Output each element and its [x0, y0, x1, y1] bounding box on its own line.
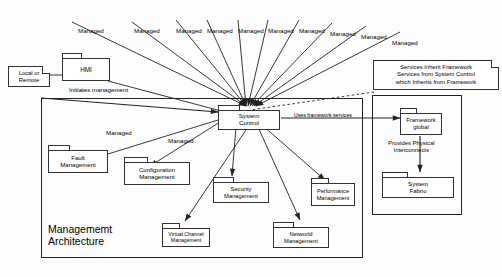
- package-virtual-channel-management[interactable]: Virtual Channel Management: [162, 223, 210, 247]
- edge-label-provides-physical-interconnects: Provides Physical Interconnects: [388, 140, 435, 154]
- package-configuration-management-label: Configuration Management: [124, 162, 190, 185]
- note-inheritance: Services Inherit Framework Services from…: [373, 60, 499, 90]
- package-hmi[interactable]: HMI: [62, 53, 110, 81]
- edge-label-managed-3: Managed: [176, 27, 202, 34]
- package-performance-management[interactable]: Performance Management: [311, 178, 355, 206]
- edge-label-managed-fault: Managed: [106, 129, 132, 136]
- edge-label-managed-8: Managed: [330, 30, 356, 37]
- package-configuration-management[interactable]: Configuration Management: [124, 157, 190, 185]
- edge-label-managed-5: Managed: [238, 27, 264, 34]
- package-hmi-label: HMI: [62, 58, 110, 81]
- package-framework-global[interactable]: Framework global: [400, 108, 442, 135]
- package-performance-management-label: Performance Management: [311, 183, 355, 206]
- diagram-canvas: Managememt Architecture Computational Ar…: [0, 0, 502, 277]
- package-fault-management[interactable]: Fault Management: [48, 145, 108, 173]
- package-system-control[interactable]: System Control: [218, 105, 280, 130]
- edge-label-managed-10: Managed: [392, 39, 418, 46]
- package-security-management[interactable]: Security Management: [213, 177, 269, 203]
- package-framework-global-label: Framework global: [400, 113, 442, 135]
- edge-label-managed-1: Managed: [78, 27, 104, 34]
- edge-label-managed-configuration: Managed: [168, 137, 194, 144]
- package-system-control-label: System Control: [218, 110, 280, 130]
- package-security-management-label: Security Management: [213, 182, 269, 203]
- edge-label-uses-framework-services: Uses framework services: [294, 112, 352, 118]
- edge-label-managed-7: Managed: [299, 27, 325, 34]
- package-system-fabric[interactable]: System Fabrio: [382, 172, 454, 198]
- note-fold-corner: [42, 66, 50, 74]
- package-fault-management-label: Fault Management: [48, 150, 108, 173]
- management-architecture-label: Managememt Architecture: [48, 223, 112, 247]
- note-local-or-remote: Local or Remote: [8, 66, 50, 87]
- edge-label-initiates-management: Initiates management: [69, 86, 128, 93]
- edge-label-managed-6: Managed: [268, 27, 294, 34]
- edge-label-managed-9: Managed: [361, 33, 387, 40]
- edge-label-managed-2: Managed: [134, 27, 160, 34]
- package-virtual-channel-management-label: Virtual Channel Management: [162, 228, 210, 247]
- note-fold-corner: [491, 60, 499, 68]
- note-inheritance-text: Services Inherit Framework Services from…: [396, 64, 477, 85]
- edge-label-managed-4: Managed: [207, 27, 233, 34]
- note-local-or-remote-text: Local or Remote: [19, 70, 40, 84]
- package-network-management-label: Networld Management: [273, 227, 329, 248]
- package-system-fabric-label: System Fabrio: [382, 177, 454, 198]
- package-network-management[interactable]: Networld Management: [273, 222, 329, 248]
